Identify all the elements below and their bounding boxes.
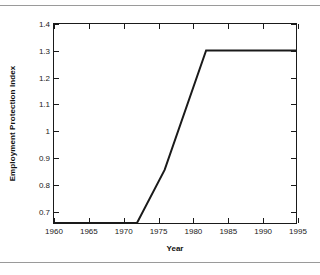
y-tick-label: 1.3 xyxy=(39,46,50,55)
chart-area: Employment Protection Index 0.70.80.911.… xyxy=(0,8,320,260)
x-tick-mark xyxy=(298,218,299,223)
y-tick-label: 1.1 xyxy=(39,100,50,109)
y-tick-label: 1.2 xyxy=(39,73,50,82)
y-tick-label: 0.9 xyxy=(39,154,50,163)
page-rule-top xyxy=(0,5,320,6)
x-tick-label: 1980 xyxy=(185,227,203,236)
x-tick-label: 1970 xyxy=(115,227,133,236)
y-tick-label: 0.8 xyxy=(39,180,50,189)
y-axis-title: Employment Protection Index xyxy=(6,23,18,224)
x-tick-label: 1965 xyxy=(80,227,98,236)
x-axis-title: Year xyxy=(53,244,297,253)
series-line-employment-protection-index xyxy=(54,51,296,223)
x-tick-label: 1960 xyxy=(45,227,63,236)
y-tick-label: 0.7 xyxy=(39,207,50,216)
x-tick-label: 1975 xyxy=(150,227,168,236)
y-tick-label: 1.4 xyxy=(39,20,50,29)
x-tick-mark-top xyxy=(298,24,299,29)
y-tick-label: 1 xyxy=(46,127,50,136)
page-rule-bottom xyxy=(0,262,320,263)
figure-root: Employment Protection Index 0.70.80.911.… xyxy=(0,0,320,275)
x-tick-label: 1990 xyxy=(254,227,272,236)
x-tick-label: 1985 xyxy=(219,227,237,236)
plot-frame: 0.70.80.911.11.21.31.4 19601965197019751… xyxy=(53,23,297,224)
x-tick-label: 1995 xyxy=(289,227,307,236)
series-line-svg xyxy=(54,24,296,223)
